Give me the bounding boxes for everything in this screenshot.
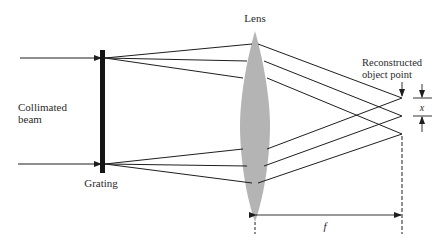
upper-diffracted-fan bbox=[105, 44, 252, 78]
lens bbox=[240, 31, 270, 222]
recon-label-line1: Reconstructed bbox=[362, 57, 423, 68]
f-dimension-label: f bbox=[323, 220, 328, 232]
beam-label-line2: beam bbox=[18, 113, 42, 125]
lower-diffracted-fan bbox=[105, 149, 252, 183]
diagram-canvas: Lens Grating Collimated beam Reconstruct… bbox=[0, 0, 446, 241]
x-dimension-label: x bbox=[419, 102, 425, 113]
beam-label-line1: Collimated bbox=[18, 101, 67, 113]
lens-label: Lens bbox=[244, 12, 265, 24]
grating-label: Grating bbox=[84, 177, 118, 189]
recon-label-line2: object point bbox=[362, 69, 412, 80]
grating bbox=[100, 50, 105, 173]
